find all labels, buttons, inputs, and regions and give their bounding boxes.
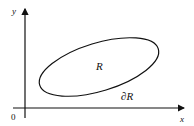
region-diagram: y x 0 R ∂R xyxy=(0,0,194,126)
boundary-label: ∂R xyxy=(121,90,133,102)
region-label: R xyxy=(95,60,103,72)
origin-label: 0 xyxy=(11,112,16,122)
y-axis-label: y xyxy=(11,6,16,16)
diagram-canvas: y x 0 R ∂R xyxy=(0,0,194,126)
x-axis-label: x xyxy=(179,114,184,124)
